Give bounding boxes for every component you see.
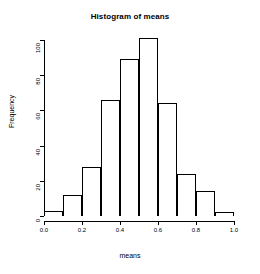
x-axis-tick-label: 0.6 [154, 227, 162, 233]
x-axis-tick-label: 0.2 [78, 227, 86, 233]
page-title: Histogram of means [0, 12, 260, 21]
x-axis-tick [158, 221, 159, 225]
histogram-bar [215, 212, 234, 216]
x-axis-tick [120, 221, 121, 225]
histogram-bar [82, 167, 101, 216]
x-axis-tick-label: 0.4 [116, 227, 124, 233]
histogram-bar [139, 38, 158, 216]
histogram-bar [101, 100, 120, 216]
histogram-bar [158, 103, 177, 216]
x-axis-tick-label: 0.8 [192, 227, 200, 233]
y-axis-tick-label: 0 [35, 219, 41, 222]
x-axis-tick [82, 221, 83, 225]
y-axis-label: Frequency [8, 95, 15, 128]
histogram-bar [120, 59, 139, 216]
x-axis-label: means [0, 252, 260, 259]
x-axis-tick [196, 221, 197, 225]
y-axis-tick-label: 60 [35, 113, 41, 120]
histogram-bar [196, 191, 215, 216]
histogram-bar [177, 174, 196, 216]
histogram-figure: Histogram of means 020406080100 0.00.20.… [0, 0, 260, 274]
y-axis-tick-label: 80 [35, 78, 41, 85]
x-axis-tick-label: 0.0 [40, 227, 48, 233]
plot-area [44, 40, 234, 216]
histogram-bar [63, 195, 82, 216]
x-axis-tick [234, 221, 235, 225]
x-axis-tick [44, 221, 45, 225]
x-axis-tick-label: 1.0 [230, 227, 238, 233]
y-axis-tick [40, 216, 44, 217]
y-axis-tick-label: 100 [35, 43, 41, 53]
histogram-bar [44, 211, 63, 216]
y-axis-tick-label: 20 [35, 184, 41, 191]
x-axis-line [44, 221, 234, 222]
y-axis-tick-label: 40 [35, 149, 41, 156]
